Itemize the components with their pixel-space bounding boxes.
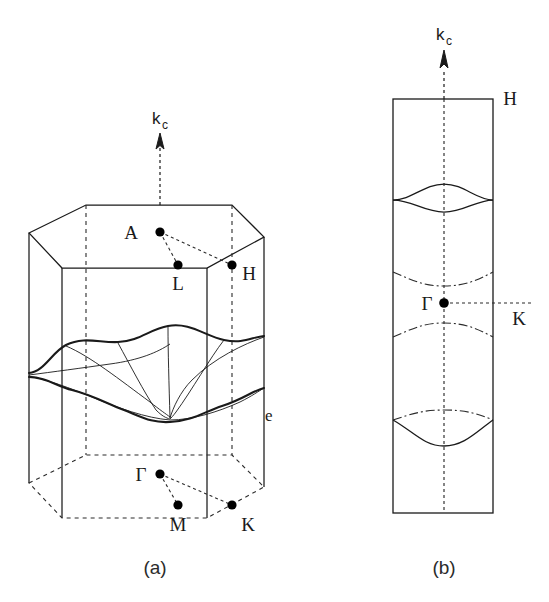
symmetry-connectors-top <box>160 232 232 265</box>
fermi-contour-dashdot-upper <box>393 272 493 286</box>
point-l <box>173 260 182 269</box>
point-h <box>227 260 236 269</box>
label-edge-e: e <box>265 406 273 425</box>
kc-axis-b: k c <box>436 25 452 99</box>
caption-clipped <box>0 588 549 602</box>
bottom-hexagon-outline <box>29 455 264 518</box>
caption-clipped-text <box>0 588 549 600</box>
prism-vertical-edges <box>29 205 264 518</box>
kc-axis-a: k c <box>152 109 168 205</box>
point-gamma-b <box>439 298 449 308</box>
fermi-surface-sheet <box>29 325 264 422</box>
kc-axis-subscript-b: c <box>446 34 452 48</box>
point-m <box>173 500 182 509</box>
figure-brillouin-zone: k c <box>0 0 549 602</box>
label-point-a: A <box>124 222 138 243</box>
connector-a-l <box>160 232 178 265</box>
kc-arrowhead-b <box>440 50 448 68</box>
fermi-contour-dashdot-bottom <box>393 410 493 420</box>
kc-axis-subscript-a: c <box>162 118 168 132</box>
label-point-gamma-b: Γ <box>422 293 433 314</box>
fermi-contour-dashdot-lower <box>393 323 493 337</box>
label-point-k: K <box>241 514 255 535</box>
kc-axis-label-a: k <box>152 109 161 128</box>
top-hexagon <box>29 205 264 268</box>
fermi-mesh-2 <box>66 346 170 417</box>
panel-a: k c <box>29 109 273 578</box>
symmetry-points-a <box>155 227 236 509</box>
label-point-k-b: K <box>512 308 526 329</box>
figure-canvas: k c <box>0 0 549 602</box>
fermi-contour-upper-bottom <box>393 200 493 212</box>
fermi-mesh-4 <box>168 327 170 418</box>
panel-label-b: (b) <box>432 557 455 578</box>
connector-gamma-m <box>160 474 178 505</box>
fermi-contour-upper-top <box>393 184 493 200</box>
panel-label-a: (a) <box>143 557 166 578</box>
kc-arrowhead-a <box>156 133 164 149</box>
point-a <box>155 227 164 236</box>
fermi-contour-lower-solid <box>393 420 493 446</box>
kc-axis-label-b: k <box>436 25 445 44</box>
label-point-h: H <box>242 263 256 284</box>
bottom-hexagon <box>29 455 264 518</box>
label-point-h-b: H <box>503 88 517 109</box>
fermi-mesh-3 <box>118 343 170 419</box>
connector-a-h <box>160 232 232 265</box>
fermi-contour-upper <box>393 184 493 212</box>
panel-b: k c Γ <box>393 25 533 578</box>
label-point-gamma: Γ <box>136 464 147 485</box>
label-point-l: L <box>172 273 184 294</box>
point-k <box>227 500 236 509</box>
fermi-upper-rim <box>29 325 264 373</box>
label-point-m: M <box>170 514 187 535</box>
symmetry-connectors-bottom <box>160 474 232 505</box>
point-gamma <box>155 469 164 478</box>
top-hexagon-outline <box>29 205 264 268</box>
connector-gamma-k <box>160 474 232 505</box>
